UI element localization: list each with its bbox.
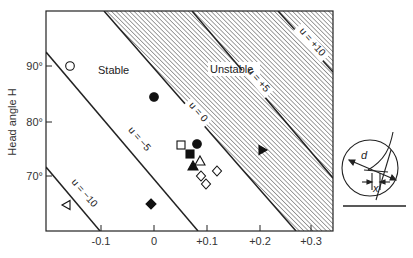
label-u-minus5: u = −5 — [126, 124, 153, 153]
x-tick-plus02: +0.2 — [249, 235, 271, 247]
y-tick-90: 90° — [26, 60, 43, 72]
stable-label: Stable — [98, 64, 129, 76]
y-tick-80: 80° — [26, 116, 43, 128]
diagram-d-label: d — [361, 149, 368, 161]
filled-square-marker — [186, 150, 194, 158]
open-triangle-up-marker — [195, 156, 205, 165]
unstable-region — [104, 11, 333, 231]
y-axis-title: Head angle H — [6, 88, 18, 155]
open-diamond-marker — [197, 171, 206, 181]
open-diamond-marker — [213, 166, 222, 176]
open-triangle-left-marker — [62, 201, 70, 210]
x-tick-plus01: +0.1 — [196, 235, 218, 247]
x-axis — [101, 225, 311, 231]
y-axis-title-text: Head angle H — [6, 88, 18, 155]
x-tick-0: 0 — [151, 235, 157, 247]
open-square-marker — [177, 141, 185, 149]
y-axis — [46, 66, 52, 176]
filled-circle-marker — [150, 93, 159, 102]
fork-curve — [368, 132, 393, 170]
filled-circle-marker — [193, 140, 202, 149]
y-tick-70: 70° — [26, 170, 43, 182]
diagram-x-label: x — [372, 182, 379, 194]
wheel-diagram — [342, 132, 406, 206]
x-tick-plus03: +0.3 — [300, 235, 322, 247]
open-diamond-marker — [202, 179, 211, 189]
chart-svg: u = +10 u = +5 u = 0 u = −5 u = −10 Stab… — [0, 0, 413, 258]
unstable-label: Unstable — [210, 63, 253, 75]
wheel-circle — [342, 140, 398, 196]
x-tick-minus01: -0.1 — [92, 235, 111, 247]
label-u-minus10: u = −10 — [69, 176, 100, 209]
open-circle-marker — [66, 62, 75, 71]
filled-diamond-marker — [146, 199, 156, 209]
